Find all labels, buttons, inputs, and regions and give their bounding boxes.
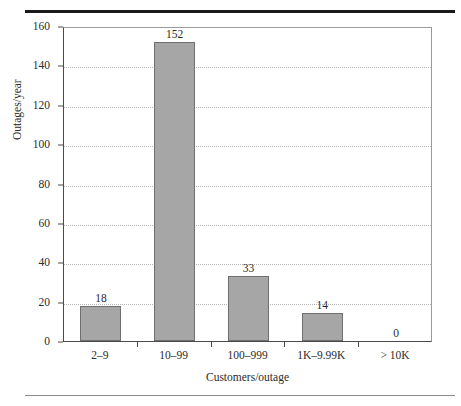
bars-layer: 1815233140 (64, 28, 431, 341)
x-axis-ticklabel: 1K–9.99K (297, 350, 345, 362)
y-axis-tickmark (58, 27, 63, 28)
figure-root: 1815233140 020406080100120140160 Outages… (0, 0, 461, 406)
x-axis-ticklabel: 100–999 (227, 350, 267, 362)
x-axis-title: Customers/outage (63, 371, 432, 383)
x-axis-tickmark (211, 342, 212, 347)
y-axis-tickmark (58, 105, 63, 106)
y-axis-tickmark (58, 184, 63, 185)
bar[interactable] (302, 313, 343, 341)
bar-value-label: 14 (317, 300, 329, 312)
bar[interactable] (80, 306, 121, 341)
plot-area: 1815233140 (63, 27, 432, 342)
bar-value-label: 0 (393, 328, 399, 340)
y-axis-tickmark (58, 302, 63, 303)
y-axis-ticklabel: 160 (33, 21, 50, 33)
y-axis-tickmark (58, 223, 63, 224)
x-axis-tickmark (137, 342, 138, 347)
y-axis-ticklabels: 020406080100120140160 (0, 27, 58, 342)
y-axis-ticklabel: 100 (33, 139, 50, 151)
bottom-rule (25, 395, 455, 396)
bar-value-label: 152 (166, 29, 183, 41)
bar-value-label: 18 (95, 293, 107, 305)
y-axis-ticklabel: 0 (44, 336, 50, 348)
y-axis-tickmark (58, 145, 63, 146)
y-axis-tickmark (58, 66, 63, 67)
y-axis-title: Outages/year (11, 79, 23, 140)
y-axis-tickmark (58, 342, 63, 343)
top-rule (25, 10, 455, 13)
y-axis-ticklabel: 120 (33, 100, 50, 112)
y-axis-ticklabel: 80 (39, 179, 51, 191)
x-axis-tickmark (284, 342, 285, 347)
y-axis-tickmark (58, 263, 63, 264)
y-axis-ticklabel: 60 (39, 218, 51, 230)
bar[interactable] (228, 276, 269, 341)
x-axis-ticklabel: > 10K (381, 350, 410, 362)
bar[interactable] (154, 42, 195, 341)
x-axis-tickmark (358, 342, 359, 347)
bar-value-label: 33 (243, 263, 255, 275)
y-axis-ticklabel: 140 (33, 61, 50, 73)
y-axis-ticklabel: 40 (39, 258, 51, 270)
y-axis-ticklabel: 20 (39, 297, 51, 309)
x-axis-ticklabel: 10–99 (159, 350, 188, 362)
x-axis-ticklabel: 2–9 (91, 350, 108, 362)
